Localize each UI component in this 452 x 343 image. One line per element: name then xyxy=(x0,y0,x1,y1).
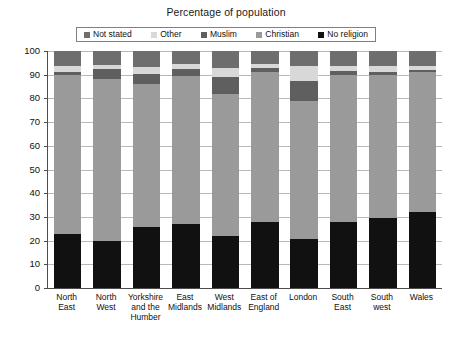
x-axis-label: Wales xyxy=(402,292,441,302)
legend-swatch-icon xyxy=(151,32,157,38)
legend-swatch-icon xyxy=(201,32,207,38)
x-axis-label: West Midlands xyxy=(205,292,244,312)
x-axis-label: East of England xyxy=(244,292,283,312)
bar-column[interactable] xyxy=(284,51,323,288)
bar-column[interactable] xyxy=(403,51,442,288)
bar-column[interactable] xyxy=(166,51,205,288)
chart-title: Percentage of population xyxy=(0,6,452,18)
bar-segment xyxy=(133,74,161,84)
bar-segment xyxy=(290,101,318,239)
bar-segment xyxy=(290,239,318,288)
bar-segment xyxy=(54,51,82,66)
y-tick-label: 70 xyxy=(29,116,40,127)
bar-segment xyxy=(409,212,437,288)
x-axis-label: London xyxy=(283,292,322,302)
bar-stack xyxy=(133,51,161,288)
bar-stack xyxy=(212,51,240,288)
bar-segment xyxy=(133,51,161,67)
legend-swatch-icon xyxy=(84,32,90,38)
bar-stack xyxy=(330,51,358,288)
bar-segment xyxy=(212,68,240,77)
bar-segment xyxy=(212,77,240,94)
bar-segment xyxy=(212,94,240,236)
y-tick-label: 80 xyxy=(29,92,40,103)
bars-layer xyxy=(48,51,442,288)
bar-segment xyxy=(172,224,200,288)
bar-segment xyxy=(330,75,358,223)
x-axis-label: North East xyxy=(47,292,86,312)
chart-figure: Percentage of population Not statedOther… xyxy=(0,0,452,343)
y-tick-label: 0 xyxy=(35,282,40,293)
bar-segment xyxy=(172,69,200,76)
bar-column[interactable] xyxy=(87,51,126,288)
bar-segment xyxy=(172,76,200,224)
bar-segment xyxy=(93,69,121,80)
bar-segment xyxy=(133,227,161,288)
bar-segment xyxy=(409,72,437,212)
legend-item-label: No religion xyxy=(327,30,368,39)
legend-item[interactable]: Muslim xyxy=(201,30,237,39)
bar-stack xyxy=(409,51,437,288)
bar-segment xyxy=(290,81,318,101)
legend-swatch-icon xyxy=(318,32,324,38)
bar-segment xyxy=(54,75,82,234)
legend-item-label: Not stated xyxy=(93,30,132,39)
bar-segment xyxy=(330,51,358,66)
bar-column[interactable] xyxy=(206,51,245,288)
legend-item-label: Other xyxy=(160,30,181,39)
bar-segment xyxy=(290,66,318,80)
bar-segment xyxy=(54,234,82,289)
y-tick-mark xyxy=(44,288,48,289)
legend-item[interactable]: Not stated xyxy=(84,30,132,39)
bar-segment xyxy=(133,84,161,226)
legend-item[interactable]: Other xyxy=(151,30,181,39)
bar-segment xyxy=(369,51,397,66)
y-tick-label: 40 xyxy=(29,187,40,198)
bar-segment xyxy=(251,51,279,64)
x-axis-label: East Midlands xyxy=(165,292,204,312)
bar-stack xyxy=(369,51,397,288)
bar-segment xyxy=(93,79,121,241)
y-tick-label: 90 xyxy=(29,69,40,80)
legend-item-label: Muslim xyxy=(210,30,237,39)
bar-segment xyxy=(369,75,397,219)
x-axis-label: Yorkshire and the Humber xyxy=(126,292,165,322)
bar-stack xyxy=(54,51,82,288)
bar-segment xyxy=(330,222,358,288)
bar-stack xyxy=(93,51,121,288)
y-tick-label: 30 xyxy=(29,211,40,222)
x-axis-label: North West xyxy=(86,292,125,312)
y-tick-label: 100 xyxy=(24,45,40,56)
bar-segment xyxy=(251,72,279,222)
chart-legend: Not statedOtherMuslimChristianNo religio… xyxy=(76,27,376,42)
bar-column[interactable] xyxy=(48,51,87,288)
bar-segment xyxy=(409,51,437,66)
bar-column[interactable] xyxy=(127,51,166,288)
bar-segment xyxy=(212,51,240,68)
y-tick-label: 50 xyxy=(29,164,40,175)
y-gridline xyxy=(48,288,442,289)
x-axis-label: South East xyxy=(323,292,362,312)
y-tick-label: 10 xyxy=(29,258,40,269)
bar-segment xyxy=(290,51,318,66)
bar-column[interactable] xyxy=(245,51,284,288)
bar-segment xyxy=(93,241,121,288)
bar-segment xyxy=(369,218,397,288)
legend-item[interactable]: Christian xyxy=(256,30,299,39)
bar-segment xyxy=(93,51,121,65)
bar-segment xyxy=(251,222,279,288)
y-tick-label: 20 xyxy=(29,235,40,246)
legend-item[interactable]: No religion xyxy=(318,30,368,39)
bar-column[interactable] xyxy=(324,51,363,288)
bar-column[interactable] xyxy=(363,51,402,288)
x-axis-labels: North EastNorth WestYorkshire and the Hu… xyxy=(47,292,441,340)
bar-segment xyxy=(172,51,200,64)
bar-stack xyxy=(172,51,200,288)
bar-segment xyxy=(212,236,240,288)
legend-item-label: Christian xyxy=(265,30,299,39)
bar-stack xyxy=(290,51,318,288)
x-axis-label: South west xyxy=(362,292,401,312)
legend-swatch-icon xyxy=(256,32,262,38)
bar-segment xyxy=(133,67,161,74)
y-tick-label: 60 xyxy=(29,140,40,151)
